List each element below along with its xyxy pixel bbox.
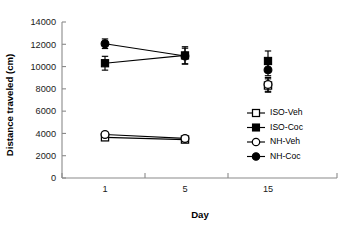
data-point-marker [252, 153, 259, 160]
data-point-marker [252, 138, 259, 145]
y-tick-label: 6000 [36, 106, 56, 116]
y-tick-label: 10000 [30, 62, 56, 72]
y-tick-label: 8000 [36, 84, 56, 94]
data-point-marker [101, 60, 108, 67]
legend-label: ISO-Veh [270, 107, 303, 117]
x-tick-label: 1 [102, 184, 107, 194]
x-tick-label: 15 [263, 184, 273, 194]
data-point-marker [253, 110, 260, 117]
data-point-marker [264, 57, 271, 64]
data-point-marker [264, 81, 272, 89]
legend-label: ISO-Coc [270, 122, 304, 132]
y-tick-label: 2000 [36, 151, 56, 161]
y-tick-label: 4000 [36, 129, 56, 139]
data-point-marker [253, 124, 260, 131]
legend-label: NH-Coc [270, 151, 301, 161]
y-tick-label: 14000 [30, 17, 56, 27]
y-axis-title: Distance traveled (cm) [4, 54, 15, 156]
x-tick-label: 5 [182, 184, 187, 194]
distance-traveled-chart: 02000400060008000100001200014000 1515 Di… [0, 0, 347, 226]
y-tick-label: 0 [51, 173, 56, 183]
data-point-marker [101, 131, 109, 139]
y-tick-label: 12000 [30, 40, 56, 50]
data-point-marker [181, 52, 189, 60]
legend-label: NH-Veh [270, 136, 300, 146]
data-point-marker [181, 135, 189, 143]
data-point-marker [264, 66, 272, 74]
x-axis-title: Day [191, 209, 209, 220]
data-point-marker [101, 40, 109, 48]
